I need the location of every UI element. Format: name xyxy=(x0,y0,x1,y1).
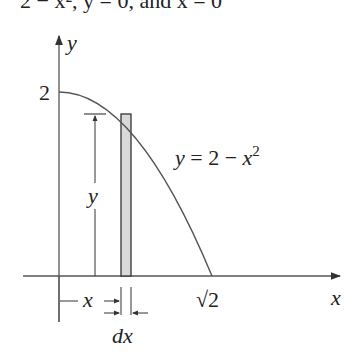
x-axis-label: x xyxy=(330,285,341,310)
parabola-curve xyxy=(59,92,212,276)
y-tick-2: 2 xyxy=(39,80,50,105)
curve-label: y = 2 − x2 xyxy=(173,143,260,170)
x-position-label: x xyxy=(82,287,93,312)
area-strip-diagram: y 2 y y = 2 − x2 x √2 x dx xyxy=(0,0,363,364)
y-axis-label: y xyxy=(65,30,77,55)
dx-label: dx xyxy=(112,323,133,348)
x-tick-sqrt2: √2 xyxy=(196,287,219,312)
strip-height-label: y xyxy=(86,183,98,208)
strip-rectangle xyxy=(121,114,131,276)
